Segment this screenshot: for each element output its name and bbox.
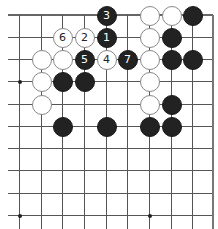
- white-stone-move-4: 4: [97, 50, 117, 70]
- move-number: 6: [59, 32, 66, 43]
- grid-line-vertical: [19, 15, 20, 229]
- black-stone: [53, 72, 73, 92]
- grid-line-vertical: [192, 15, 193, 229]
- black-stone: [162, 95, 182, 115]
- black-stone: [97, 117, 117, 137]
- move-number: 7: [124, 54, 131, 65]
- black-stone-move-7: 7: [118, 50, 138, 70]
- black-stone: [162, 28, 182, 48]
- move-number: 1: [103, 32, 110, 43]
- black-stone: [183, 6, 203, 26]
- star-point: [18, 80, 22, 84]
- black-stone-move-1: 1: [97, 28, 117, 48]
- white-stone: [140, 72, 160, 92]
- grid-line-vertical: [41, 15, 42, 229]
- white-stone: [53, 50, 73, 70]
- white-stone-move-2: 2: [75, 28, 95, 48]
- white-stone: [140, 28, 160, 48]
- grid-line-horizontal: [8, 215, 213, 216]
- black-stone-move-3: 3: [97, 6, 117, 26]
- white-stone: [140, 6, 160, 26]
- move-number: 5: [81, 54, 88, 65]
- board-right-edge: [212, 15, 214, 229]
- white-stone-move-6: 6: [53, 28, 73, 48]
- white-stone: [32, 72, 52, 92]
- white-stone: [140, 50, 160, 70]
- grid-line-horizontal: [8, 170, 213, 171]
- black-stone: [53, 117, 73, 137]
- black-stone: [162, 117, 182, 137]
- black-stone: [162, 50, 182, 70]
- black-stone: [183, 50, 203, 70]
- white-stone: [162, 6, 182, 26]
- go-board: 3621547: [0, 0, 218, 229]
- white-stone: [32, 50, 52, 70]
- star-point: [148, 214, 152, 218]
- white-stone: [32, 95, 52, 115]
- move-number: 2: [81, 32, 88, 43]
- grid-line-vertical: [127, 15, 128, 229]
- move-number: 4: [103, 54, 110, 65]
- grid-line-horizontal: [8, 148, 213, 149]
- white-stone: [140, 95, 160, 115]
- star-point: [18, 214, 22, 218]
- black-stone: [140, 117, 160, 137]
- black-stone-move-5: 5: [75, 50, 95, 70]
- move-number: 3: [103, 10, 110, 21]
- black-stone: [75, 72, 95, 92]
- grid-line-horizontal: [8, 193, 213, 194]
